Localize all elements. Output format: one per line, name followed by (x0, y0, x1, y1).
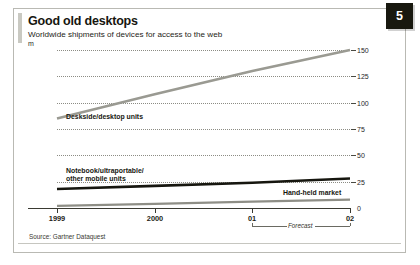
page-title: Good old desktops (28, 14, 138, 28)
figure-number-badge: 5 (386, 3, 413, 29)
gridline-75 (57, 129, 350, 130)
ytick-label-50: 50 (357, 152, 365, 159)
ytick-dash-150 (351, 50, 356, 51)
xtick-label-01: 01 (248, 214, 256, 223)
xtick-2000 (155, 208, 156, 213)
xtick-label-2000: 2000 (147, 214, 163, 223)
title-accent-bar (18, 13, 22, 43)
gridline-100 (57, 103, 350, 104)
series-label-handheld: Hand-held market (283, 189, 341, 197)
forecast-bracket-line-right (315, 226, 350, 227)
forecast-bracket-line-left (252, 226, 287, 227)
series-label-deskside-desktop: Deskside/desktop units (66, 113, 143, 121)
y-axis-unit-label: m (28, 40, 34, 47)
xtick-label-02: 02 (346, 214, 354, 223)
ytick-label-100: 100 (357, 100, 369, 107)
xtick-01 (252, 208, 253, 213)
ytick-label-150: 150 (357, 47, 369, 54)
series-label-notebook-line2: other mobile units (66, 175, 126, 183)
ytick-label-0: 0 (357, 205, 361, 212)
forecast-label: Forecast (288, 222, 313, 229)
forecast-bracket-tick-right (350, 223, 351, 226)
source-note: Source: Gartner Dataquest (29, 233, 105, 240)
chart-figure: Good old desktops Worldwide shipments of… (0, 0, 420, 265)
gridline-150 (57, 50, 350, 51)
ytick-label-25: 25 (357, 179, 365, 186)
ytick-label-75: 75 (357, 126, 365, 133)
ytick-dash-125 (351, 76, 356, 77)
chart-subtitle: Worldwide shipments of devices for acces… (28, 30, 222, 39)
xtick-1999 (57, 208, 58, 213)
x-axis-line (28, 208, 350, 209)
ytick-dash-25 (351, 182, 356, 183)
ytick-label-125: 125 (357, 73, 369, 80)
ytick-dash-100 (351, 103, 356, 104)
gridline-125 (57, 76, 350, 77)
xtick-label-1999: 1999 (49, 214, 65, 223)
ytick-dash-50 (351, 155, 356, 156)
ytick-dash-75 (351, 129, 356, 130)
gridline-50 (57, 155, 350, 156)
xtick-02 (350, 208, 351, 213)
footer-divider (18, 243, 401, 244)
